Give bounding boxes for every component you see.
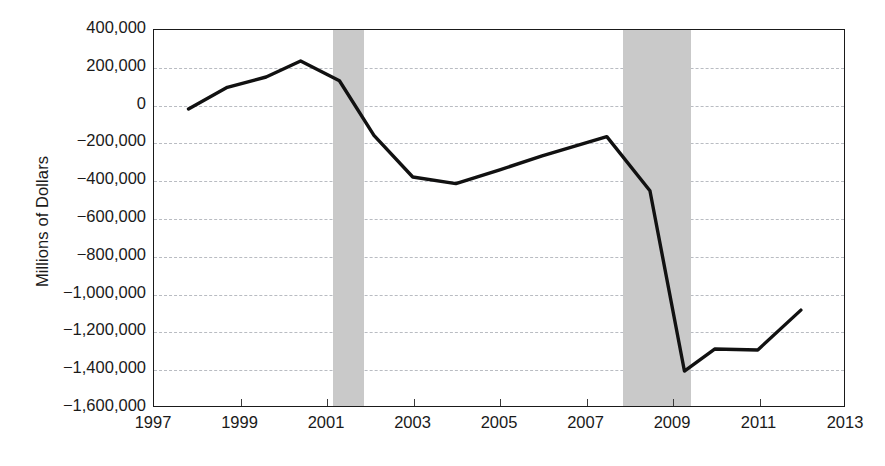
y-axis-tick-label-text: −1,200,000 (63, 320, 146, 339)
chart-container: Millions of Dollars 400,000200,0000−200,… (0, 0, 885, 466)
x-axis-tick-label: 2013 (827, 413, 864, 432)
x-axis-tick-label: 2009 (654, 413, 691, 432)
x-axis-tick-label: 2007 (567, 413, 604, 432)
y-axis-tick-label-text: −1,000,000 (63, 283, 146, 302)
y-axis-tick-label-text: −200,000 (77, 131, 146, 150)
y-axis-tick-label-text: −800,000 (77, 245, 146, 264)
x-axis-tick-label: 1999 (221, 413, 258, 432)
series-line (189, 61, 801, 371)
y-axis-tick-label-text: 200,000 (86, 56, 146, 75)
plot-area (153, 29, 845, 407)
y-axis-tick-label-text: −600,000 (77, 207, 146, 226)
x-axis-tick-label: 2001 (308, 413, 345, 432)
x-axis-tick-label: 2003 (394, 413, 431, 432)
data-line-series (154, 30, 844, 406)
x-axis-tick-label: 2011 (741, 413, 776, 432)
y-axis-tick-label-text: 0 (137, 94, 146, 113)
x-axis-tick-labels: 199719992001200320052007200920112013 (0, 413, 885, 447)
x-axis-tick-label: 1997 (135, 413, 172, 432)
y-axis-tick-label-text: −400,000 (77, 169, 146, 188)
y-axis-tick-labels: 400,000200,0000−200,000−400,000−600,000−… (0, 0, 146, 466)
y-axis-tick-label-text: 400,000 (86, 18, 146, 37)
y-axis-tick-label-text: −1,400,000 (63, 358, 146, 377)
x-axis-tick-label: 2005 (481, 413, 518, 432)
